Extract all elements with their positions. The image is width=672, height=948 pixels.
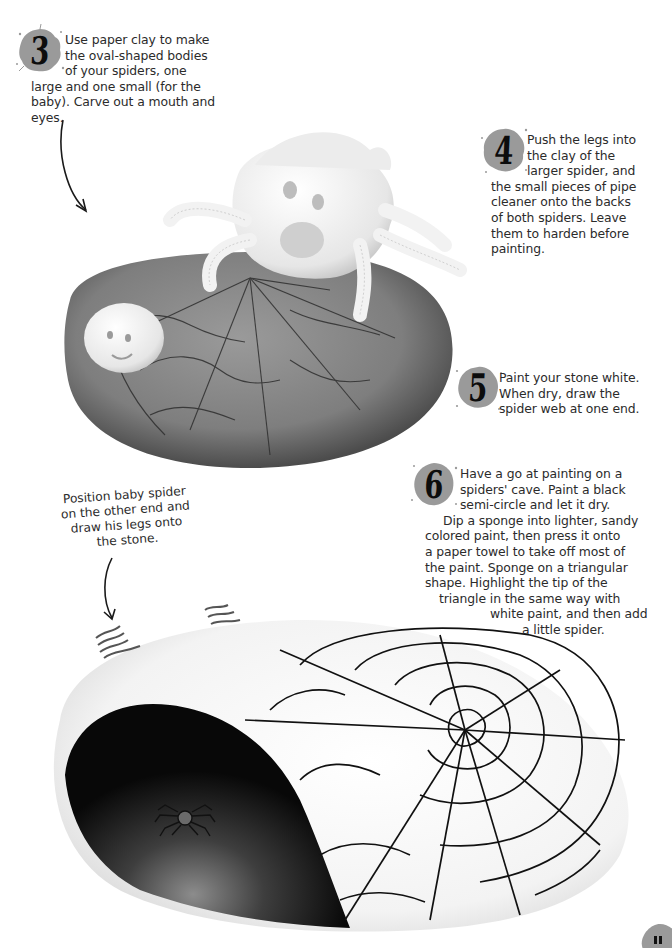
step-5-text: Paint your stone white. When dry, draw t… [499, 370, 639, 417]
page-number-badge-icon [638, 920, 672, 948]
step-4-text: Push the legs into the clay of the large… [491, 132, 636, 257]
photo-grey-stone-spiders [40, 110, 480, 480]
step-5-number: 5 [458, 361, 498, 413]
step-5-badge: 5 [452, 361, 504, 413]
photo-white-stone-cave [0, 600, 672, 948]
baby-spider-caption: Position baby spider on the other end an… [54, 483, 198, 553]
